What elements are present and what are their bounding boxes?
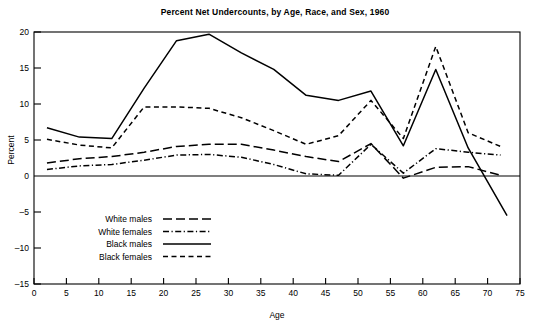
x-tick-label: 25 [191, 288, 201, 298]
x-tick-label: 30 [224, 288, 234, 298]
y-tick-label: –5 [20, 207, 30, 217]
y-axis-ticks: –15–10–505101520 [15, 27, 41, 289]
y-tick-label: 15 [20, 63, 30, 73]
x-tick-label: 65 [450, 288, 460, 298]
x-tick-label: 35 [256, 288, 266, 298]
x-tick-label: 5 [64, 288, 69, 298]
x-tick-label: 0 [32, 288, 37, 298]
line-chart-plot: –15–10–505101520 05101520253035404550556… [0, 0, 550, 326]
y-tick-label: 0 [24, 171, 29, 181]
series-line-white-females [47, 144, 501, 175]
y-axis-title: Percent [6, 135, 16, 165]
x-axis-ticks: 051015202530354045505560657075 [32, 278, 525, 298]
x-tick-label: 45 [321, 288, 331, 298]
chart-legend: White malesWhite femalesBlack malesBlack… [98, 214, 211, 262]
x-tick-label: 10 [94, 288, 104, 298]
x-axis-title: Age [269, 310, 284, 320]
x-tick-label: 75 [515, 288, 525, 298]
legend-label-white-females: White females [98, 227, 152, 237]
series-line-white-males [47, 144, 501, 179]
x-tick-label: 15 [126, 288, 136, 298]
x-tick-label: 20 [159, 288, 169, 298]
chart-figure: Percent Net Undercounts, by Age, Race, a… [0, 0, 550, 326]
y-tick-label: –10 [15, 243, 29, 253]
y-tick-label: 10 [20, 99, 30, 109]
legend-label-black-males: Black males [106, 239, 152, 249]
x-tick-label: 40 [288, 288, 298, 298]
x-tick-label: 60 [418, 288, 428, 298]
series-line-black-males [47, 34, 507, 215]
legend-label-black-females: Black females [99, 252, 152, 262]
x-tick-label: 50 [353, 288, 363, 298]
legend-label-white-males: White males [105, 214, 152, 224]
x-tick-label: 55 [386, 288, 396, 298]
y-tick-label: 20 [20, 27, 30, 37]
y-tick-label: 5 [24, 135, 29, 145]
data-series-group [47, 34, 507, 215]
x-tick-label: 70 [483, 288, 493, 298]
y-tick-label: –15 [15, 279, 29, 289]
